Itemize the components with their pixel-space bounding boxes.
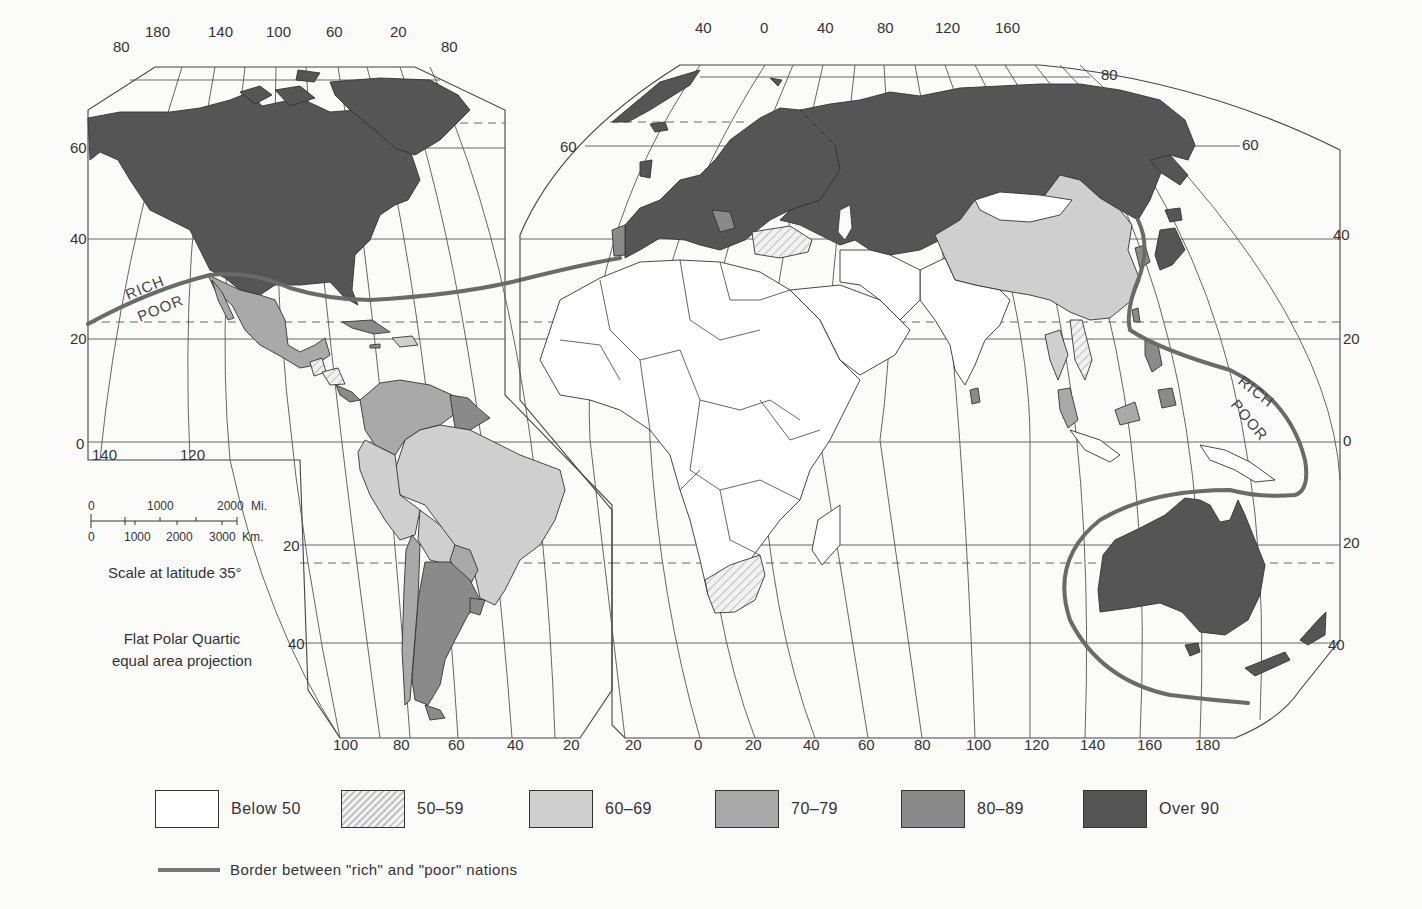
scale-bar (91, 514, 237, 528)
legend-item-80-89: 80–89 (901, 790, 1024, 828)
lon-label: 180 (1195, 736, 1220, 753)
lat-label: 40 (288, 635, 305, 652)
lon-label: 140 (208, 23, 233, 40)
lat-label: 40 (1333, 226, 1350, 243)
scale-mi-1000: 1000 (147, 499, 174, 513)
eastern-hemisphere-panel: RICH POOR 40 0 40 80 120 160 60 80 60 40… (520, 19, 1360, 753)
swatch-80-89 (901, 790, 965, 828)
rich-poor-line-swatch (158, 868, 220, 872)
lat-label: 0 (1343, 432, 1351, 449)
new-zealand (1245, 652, 1290, 676)
scale-km-unit: Km. (242, 530, 263, 544)
lon-label: 40 (803, 736, 820, 753)
world-map: RICH POOR 180 140 100 60 20 80 80 60 40 … (0, 0, 1422, 909)
legend-item-over-90: Over 90 (1083, 790, 1219, 828)
legend-label: 60–69 (605, 800, 652, 818)
lat-label: 60 (1242, 136, 1259, 153)
lon-label: 20 (390, 23, 407, 40)
lon-label: 20 (745, 736, 762, 753)
lat-label: 20 (283, 537, 300, 554)
lon-label: 20 (563, 736, 580, 753)
border-legend: Border between "rich" and "poor" nations (158, 861, 517, 878)
lat-label: 20 (1343, 534, 1360, 551)
lon-label: 60 (448, 736, 465, 753)
lon-label: 40 (507, 736, 524, 753)
lon-label: 120 (935, 19, 960, 36)
swatch-70-79 (715, 790, 779, 828)
lon-label: 0 (760, 19, 768, 36)
lon-label: 120 (1024, 736, 1049, 753)
swatch-over-90 (1083, 790, 1147, 828)
legend: Below 50 50–59 60–69 70–79 80–89 Over 90 (155, 790, 1275, 830)
lat-label: 40 (1328, 636, 1345, 653)
lon-label: 0 (694, 736, 702, 753)
legend-label: 70–79 (791, 800, 838, 818)
turkey (752, 226, 812, 258)
lon-label: 120 (180, 446, 205, 463)
scale-mi-2000: 2000 (217, 499, 244, 513)
lon-label: 80 (877, 19, 894, 36)
legend-item-60-69: 60–69 (529, 790, 652, 828)
lon-label: 60 (858, 736, 875, 753)
projection-line-2: equal area projection (92, 652, 272, 669)
lat-label: 20 (70, 330, 87, 347)
scale-km-2000: 2000 (166, 530, 193, 544)
lon-label: 80 (393, 736, 410, 753)
swatch-below-50 (155, 790, 219, 828)
lat-label: 60 (560, 138, 577, 155)
lat-label: 80 (113, 38, 130, 55)
legend-label: 50–59 (417, 800, 464, 818)
lat-label: 20 (1343, 330, 1360, 347)
scale-mi-unit: Mi. (251, 499, 267, 513)
lon-label: 60 (326, 23, 343, 40)
lon-label: 100 (266, 23, 291, 40)
legend-item-50-59: 50–59 (341, 790, 464, 828)
lon-label: 180 (145, 23, 170, 40)
lon-label: 140 (1080, 736, 1105, 753)
swatch-60-69 (529, 790, 593, 828)
lon-label: 40 (817, 19, 834, 36)
scale-caption: Scale at latitude 35° (108, 564, 242, 581)
lon-label: 160 (1137, 736, 1162, 753)
australia (1098, 498, 1265, 635)
lon-label: 160 (995, 19, 1020, 36)
scale-km-3000: 3000 (209, 530, 236, 544)
lon-label: 140 (92, 446, 117, 463)
swatch-50-59 (341, 790, 405, 828)
lat-label: 80 (1101, 66, 1118, 83)
lat-label: 40 (70, 230, 87, 247)
argentina (412, 562, 480, 705)
lon-label: 100 (966, 736, 991, 753)
lat-label: 0 (76, 435, 84, 452)
lon-label: 20 (625, 736, 642, 753)
projection-line-1: Flat Polar Quartic (92, 630, 272, 647)
lat-label: 80 (441, 38, 458, 55)
legend-item-below-50: Below 50 (155, 790, 301, 828)
legend-item-70-79: 70–79 (715, 790, 838, 828)
scale-km-1000: 1000 (124, 530, 151, 544)
lon-label: 40 (695, 19, 712, 36)
legend-label: Below 50 (231, 800, 301, 818)
lon-label: 100 (333, 736, 358, 753)
legend-label: 80–89 (977, 800, 1024, 818)
lon-label: 80 (914, 736, 931, 753)
legend-label: Over 90 (1159, 800, 1219, 818)
border-legend-label: Border between "rich" and "poor" nations (230, 861, 517, 878)
scale-mi-0: 0 (88, 499, 95, 513)
lat-label: 60 (70, 139, 87, 156)
scale-km-0: 0 (88, 530, 95, 544)
